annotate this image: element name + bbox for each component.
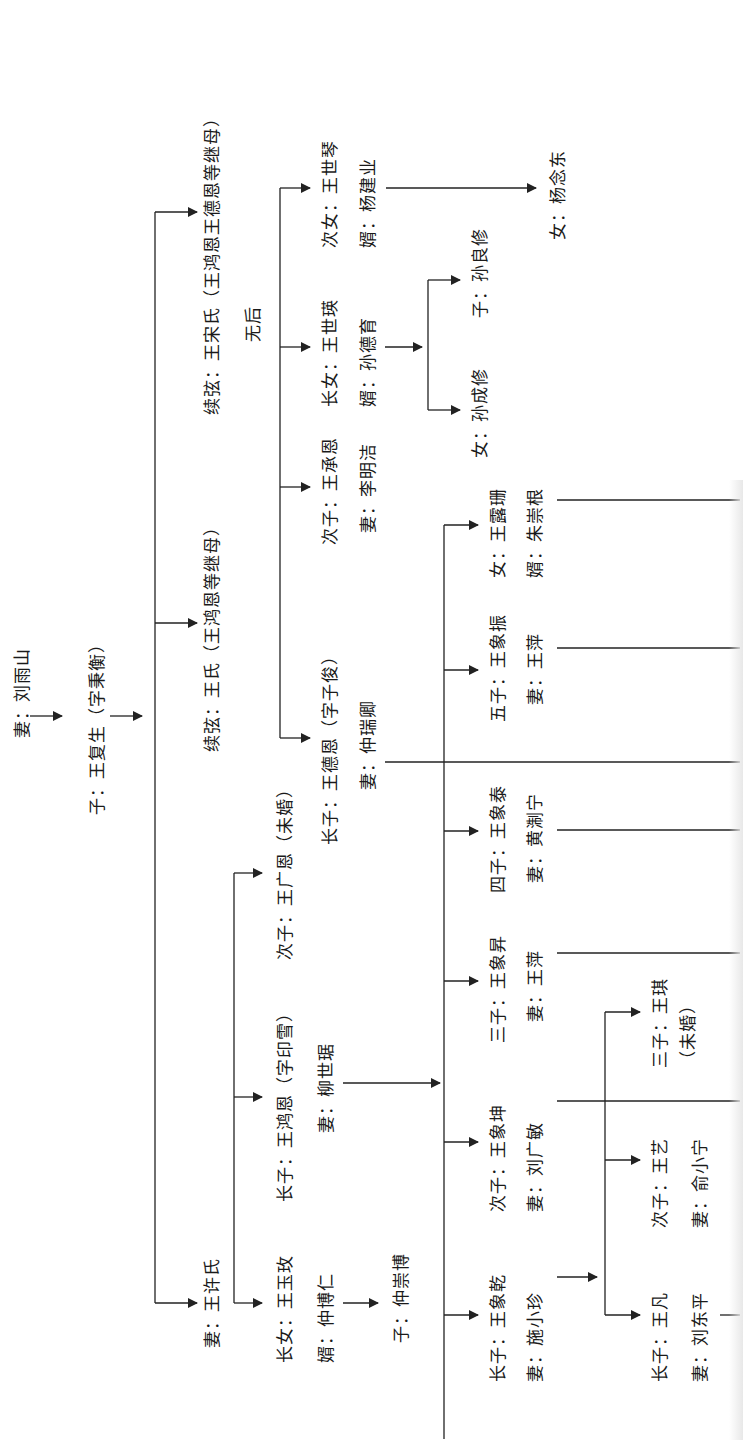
g2-daughter-label: 长女：王玉玫: [275, 1255, 295, 1363]
g4-son3-note: （未婚）: [678, 996, 698, 1068]
wife3-note: 无后: [243, 306, 263, 342]
g3-son1-label: 长子：王象乾: [488, 1274, 508, 1382]
g4-son3-label: 三子：王琪: [650, 978, 670, 1068]
g2-son1-wife-label: 妻：柳世琚: [316, 1043, 336, 1133]
wife2-label: 续弦：王氏（王鸿恩等继母）: [202, 518, 222, 752]
g3-son5-label: 五子：王象振: [488, 614, 508, 722]
g3-daughter-label: 女：王露珊: [488, 488, 508, 578]
g2-daughter-son-label: 子：仲崇博: [391, 1253, 411, 1343]
wife3-label: 续弦：王宋氏（王鸿恩王德恩等继母）: [202, 109, 222, 415]
g3-son4-wife-label: 妻：黄淛宁: [525, 793, 545, 883]
son-label: 子：王复生（字秉衡）: [87, 635, 107, 815]
g3-son3-wife-label: 妻：王萍: [525, 950, 545, 1022]
w2-dau2-husband-label: 婿：杨建业: [358, 158, 378, 248]
root-wife-label: 妻：刘雨山: [12, 648, 32, 738]
w2-son2-label: 次子：王承恩: [320, 437, 340, 545]
g3-son5-wife-label: 妻：王萍: [525, 633, 545, 705]
g3-daughter-husband-label: 婿：朱崇根: [525, 488, 545, 578]
sun-son-label: 子：孙良修: [470, 228, 490, 318]
wife1-label: 妻：王许氏: [202, 1258, 222, 1348]
w2-son1-label: 长子：王德恩（字子俊）: [320, 647, 340, 845]
g3-son2-label: 次子：王象坤: [488, 1104, 508, 1212]
g2-daughter-husband-label: 婿：仲博仁: [316, 1273, 336, 1363]
g4-son1-wife-label: 妻：刘东平: [690, 1292, 710, 1382]
g3-son2-wife-label: 妻：刘广敏: [525, 1122, 545, 1212]
g4-son2-label: 次子：王艺: [650, 1138, 670, 1228]
g3-son1-wife-label: 妻：施小珍: [525, 1292, 545, 1382]
w2-son1-wife-label: 妻：仲瑞卿: [358, 700, 378, 790]
w2-dau2-label: 次女：王世琴: [320, 140, 340, 248]
yang-daughter-label: 女：杨念东: [548, 150, 568, 240]
g4-son2-wife-label: 妻：俞小宁: [690, 1138, 710, 1228]
sun-daughter-label: 女：孙成修: [470, 368, 490, 458]
w2-dau1-husband-label: 婿：孙德育: [358, 317, 378, 407]
g3-son4-label: 四子：王象泰: [488, 785, 508, 893]
g2-son1-label: 长子：王鸿恩（字印雪）: [275, 1004, 295, 1202]
w2-dau1-label: 长女：王世瑛: [320, 299, 340, 407]
w2-son2-wife-label: 妻：李明洁: [358, 443, 378, 533]
g2-son2-label: 次子：王广恩（未婚）: [275, 780, 295, 960]
g4-son1-label: 长子：王凡: [650, 1292, 670, 1382]
g3-son3-label: 三子：王象昇: [488, 935, 508, 1043]
page-edge-shadow: [729, 480, 743, 1440]
